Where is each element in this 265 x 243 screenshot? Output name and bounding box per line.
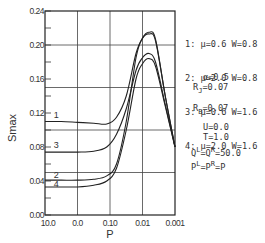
- curve-label-1: 1: [54, 110, 59, 120]
- param-p-value: =P: [215, 162, 225, 172]
- param-t: T=1.0: [203, 132, 229, 142]
- y-tick-label: 0.20: [29, 40, 44, 50]
- y-axis-ticks: 0.000.040.080.120.160.200.24: [29, 6, 51, 220]
- curve-label-3: 3: [54, 140, 59, 150]
- x-axis-label: P: [106, 228, 113, 240]
- param-rj: RJ=0.07: [193, 82, 228, 95]
- y-tick-label: 0.24: [29, 6, 44, 16]
- param-p: PL=PR=P: [191, 160, 225, 172]
- param-rb: RB=0.07: [193, 103, 228, 116]
- y-tick-label: 0.08: [29, 142, 44, 152]
- param-rb-value: =0.07: [202, 103, 228, 113]
- param-q: QL=QR=50.0: [191, 146, 241, 158]
- x-tick-label: 0.001: [166, 218, 186, 228]
- param-alpha: α=0.5: [203, 72, 229, 82]
- x-tick-label: 10.0: [41, 218, 56, 228]
- x-tick-label: 0.0: [72, 218, 83, 228]
- param-u: U=0.0: [203, 122, 229, 132]
- y-axis-label: Smax: [6, 113, 18, 142]
- param-q-value: =50.0: [215, 148, 241, 158]
- curve-label-4: 4: [54, 179, 59, 189]
- y-tick-label: 0.16: [29, 74, 44, 84]
- x-tick-label: 0.01: [135, 218, 150, 228]
- y-tick-label: 0.04: [29, 176, 44, 186]
- param-rj-value: =0.07: [202, 82, 228, 92]
- x-axis-ticks: 10.00.00.100.010.001: [41, 218, 185, 228]
- y-tick-label: 0.12: [29, 108, 44, 118]
- legend-entry-1: 1: μ=0.6 W=0.8: [185, 39, 257, 50]
- x-tick-label: 0.10: [103, 218, 118, 228]
